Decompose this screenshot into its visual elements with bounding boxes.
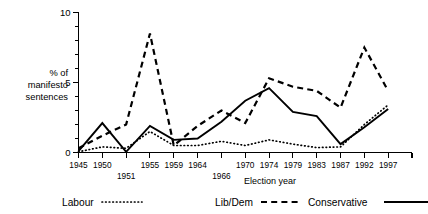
chart-figure: 0510 19451950195519591964197019741979198…	[0, 0, 428, 214]
series-line-lib-dem	[79, 34, 389, 149]
x-tick-label-1987: 1987	[331, 160, 350, 170]
x-tick-label-1950: 1950	[93, 160, 112, 170]
legend-label-lib-dem: Lib/Dem	[215, 197, 253, 208]
y-axis-title: % ofmanifestosentences	[26, 68, 69, 102]
x-tick-label-1951: 1951	[117, 171, 136, 181]
data-series-group	[79, 34, 389, 152]
x-axis	[79, 153, 413, 159]
chart-legend: LabourLib/DemConservative	[62, 197, 428, 208]
x-tick-label-1983: 1983	[307, 160, 326, 170]
chart-canvas: 0510 19451950195519591964197019741979198…	[0, 0, 428, 214]
x-tick-label-1945: 1945	[69, 160, 88, 170]
series-line-conservative	[79, 88, 389, 152]
y-axis	[73, 13, 79, 153]
x-tick-label-1979: 1979	[284, 160, 303, 170]
y-axis-title-line-2: manifesto	[28, 80, 68, 90]
x-tick-label-1970: 1970	[236, 160, 255, 170]
x-tick-label-1974: 1974	[260, 160, 279, 170]
x-tick-label-1997: 1997	[379, 160, 398, 170]
y-axis-title-line-3: sentences	[26, 92, 69, 102]
x-axis-title-text: Election year	[244, 176, 296, 186]
x-tick-label-1959: 1959	[165, 160, 184, 170]
x-tick-labels: 1945195019551959196419701974197919831987…	[69, 160, 398, 181]
legend-label-conservative: Conservative	[308, 197, 368, 208]
x-tick-label-1966: 1966	[212, 171, 231, 181]
x-axis-title: Election year	[244, 176, 296, 186]
y-axis-title-line-1: % of	[49, 68, 68, 78]
y-tick-label-10: 10	[60, 7, 71, 18]
x-tick-label-1964: 1964	[188, 160, 207, 170]
x-tick-label-1992: 1992	[355, 160, 374, 170]
legend-label-labour: Labour	[62, 197, 94, 208]
y-tick-label-0: 0	[65, 147, 70, 158]
x-tick-label-1955: 1955	[141, 160, 160, 170]
